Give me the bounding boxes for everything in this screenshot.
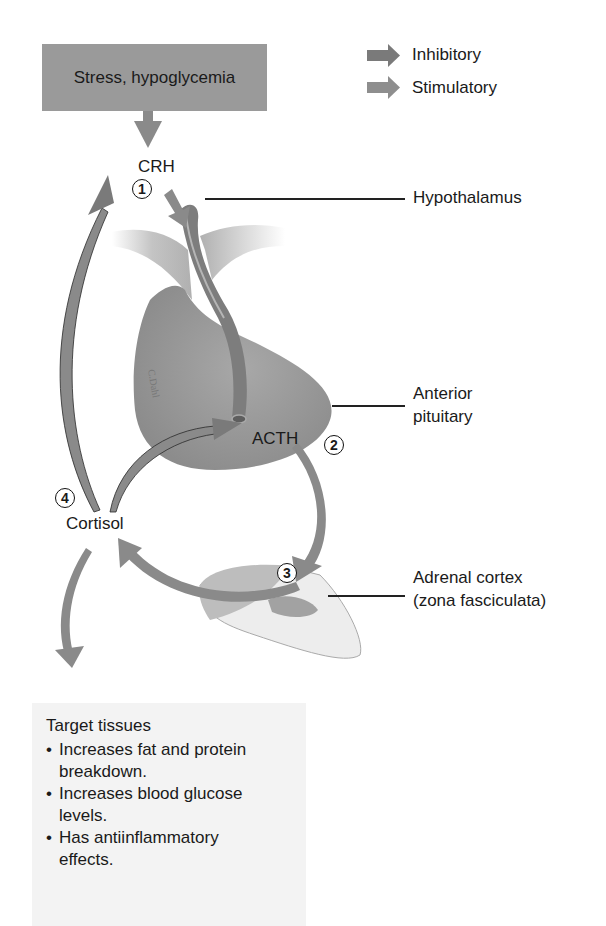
stimulatory-arrow-crh-to-pituitary <box>164 189 190 228</box>
target-tissues-box: Target tissues Increases fat and protein… <box>32 703 306 926</box>
legend-inhibitory-arrow-icon <box>367 44 400 67</box>
anterior-pituitary-leader-line <box>332 405 405 407</box>
effect-item: Increases fat and protein breakdown. <box>46 739 292 783</box>
legend-inhibitory-label: Inhibitory <box>412 44 481 66</box>
stress-hypoglycemia-box: Stress, hypoglycemia <box>42 44 267 111</box>
acth-label: ACTH <box>252 428 298 450</box>
anterior-pituitary-label-line1: Anterior <box>413 383 473 405</box>
adrenal-cortex-label-line2: (zona fasciculata) <box>413 590 546 612</box>
step-3-badge: 3 <box>277 563 297 583</box>
stimulatory-arrow-acth-to-adrenal <box>292 443 326 582</box>
anterior-pituitary-label-line2: pituitary <box>413 406 473 428</box>
inhibitory-arrow-cortisol-to-hypothalamus <box>60 175 114 512</box>
step-2-badge: 2 <box>324 435 344 455</box>
hypothalamus-leader-line <box>205 198 405 200</box>
effect-item: Increases blood glucose levels. <box>46 783 292 827</box>
step-1-badge: 1 <box>132 179 152 199</box>
target-tissues-heading: Target tissues <box>46 715 292 737</box>
legend-stimulatory-arrow-icon <box>367 76 400 99</box>
cortisol-label: Cortisol <box>66 513 124 535</box>
legend-stimulatory-label: Stimulatory <box>412 77 497 99</box>
stress-hypoglycemia-label: Stress, hypoglycemia <box>74 68 236 88</box>
adrenal-cortex-label-line1: Adrenal cortex <box>413 567 523 589</box>
adrenal-cortex-leader-line <box>328 595 405 597</box>
effect-item: Has antiinflammatory effects. <box>46 827 292 871</box>
step-4-badge: 4 <box>55 488 75 508</box>
stimulatory-arrow-stress-to-crh <box>134 111 162 148</box>
crh-label: CRH <box>138 156 175 178</box>
stimulatory-arrow-cortisol-to-target <box>55 548 92 668</box>
target-tissues-effects-list: Increases fat and protein breakdown. Inc… <box>46 739 292 871</box>
hypothalamus-label: Hypothalamus <box>413 187 522 209</box>
